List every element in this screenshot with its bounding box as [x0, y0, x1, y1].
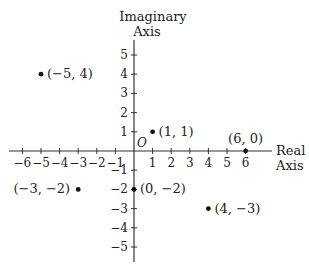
x-tick-label: −2 [88, 156, 106, 170]
data-point [150, 129, 155, 134]
y-tick-label: −4 [110, 221, 128, 235]
y-tick-label: 4 [120, 67, 128, 81]
data-point [76, 187, 81, 192]
origin-label: O [137, 136, 147, 150]
point-label: (4, −3) [214, 201, 260, 216]
x-tick-label: 2 [167, 156, 175, 170]
data-point [243, 149, 248, 154]
y-tick-label: −3 [110, 202, 128, 216]
data-point [132, 187, 137, 192]
point-label: (−3, −2) [13, 181, 70, 196]
x-axis-label-line2: Axis [275, 158, 304, 173]
y-axis-label-line1: Imaginary [119, 9, 187, 24]
complex-plane-diagram: −6−5−4−3−2−112345654321−1−2−3−4−5 (−5, 4… [0, 0, 309, 270]
y-axis-label-line2: Axis [132, 24, 161, 39]
x-tick-label: 5 [223, 156, 231, 170]
x-axis-label-line1: Real [276, 143, 305, 158]
y-tick-label: −2 [110, 182, 128, 196]
x-tick-label: −6 [14, 156, 32, 170]
point-label: (1, 1) [159, 124, 194, 139]
data-point [39, 72, 44, 77]
data-point [206, 206, 211, 211]
x-tick-label: −4 [51, 156, 69, 170]
y-tick-label: −5 [110, 240, 128, 254]
point-label: (6, 0) [228, 131, 263, 146]
x-tick-label: 6 [242, 156, 250, 170]
x-tick-label: −5 [32, 156, 50, 170]
point-label: (−5, 4) [47, 66, 93, 81]
x-tick-label: 1 [149, 156, 157, 170]
y-tick-label: 3 [120, 86, 128, 100]
y-tick-label: −1 [110, 163, 128, 177]
y-tick-label: 1 [120, 125, 128, 139]
y-tick-label: 5 [120, 48, 128, 62]
x-tick-label: −3 [69, 156, 87, 170]
x-tick-label: 3 [186, 156, 194, 170]
x-tick-label: 4 [205, 156, 213, 170]
point-label: (0, −2) [140, 181, 186, 196]
y-tick-label: 2 [120, 106, 128, 120]
